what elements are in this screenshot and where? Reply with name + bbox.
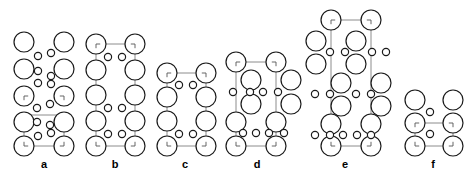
small-atom [246, 88, 253, 95]
unit-cell-edges [167, 73, 206, 146]
large-atom [281, 94, 301, 114]
panel-label-e: e [342, 158, 348, 170]
small-atom [34, 67, 41, 74]
large-atom [405, 90, 425, 110]
small-atom [259, 88, 266, 95]
small-atom [175, 130, 182, 137]
small-atom [341, 48, 348, 55]
large-atom [54, 59, 74, 79]
large-atom [443, 90, 463, 110]
large-atom [157, 87, 177, 107]
small-atom [104, 53, 111, 60]
large-atom [306, 31, 326, 51]
small-atom [426, 108, 433, 115]
small-atom [326, 90, 333, 97]
small-atom [367, 90, 374, 97]
small-atom [326, 48, 333, 55]
structure-panel-f: f [405, 90, 463, 170]
small-atom [46, 100, 53, 107]
large-atoms [157, 63, 216, 156]
panel-label-a: a [41, 158, 48, 170]
small-atom [34, 132, 41, 139]
structure-panel-a: a [14, 32, 74, 170]
large-atom [54, 112, 74, 132]
large-atom [196, 111, 216, 131]
small-atom [368, 48, 375, 55]
small-atom [34, 52, 41, 59]
small-atom [33, 104, 40, 111]
large-atom [157, 111, 177, 131]
panel-label-b: b [112, 158, 119, 170]
large-atoms [226, 52, 301, 156]
large-atom [331, 73, 351, 93]
large-atom [331, 96, 351, 116]
small-atom [118, 130, 125, 137]
small-atom [367, 131, 374, 138]
structure-panel-c: c [157, 63, 216, 170]
structures-canvas: abcdef [0, 0, 472, 186]
large-atom [346, 31, 366, 51]
large-atom [14, 112, 34, 132]
small-atom [189, 81, 196, 88]
large-atom [86, 60, 106, 80]
small-atom [426, 130, 433, 137]
structure-panel-d: d [226, 52, 301, 170]
small-atom [175, 81, 182, 88]
small-atoms [175, 81, 196, 137]
large-atom [306, 54, 326, 74]
small-atoms [33, 49, 54, 139]
small-atoms [104, 53, 125, 137]
large-atom [86, 85, 106, 105]
small-atom [47, 49, 54, 56]
small-atom [104, 130, 111, 137]
small-atom [46, 121, 53, 128]
large-atom [125, 85, 145, 105]
small-atom [34, 79, 41, 86]
small-atom [252, 129, 259, 136]
large-atom [14, 59, 34, 79]
small-atom [239, 129, 246, 136]
large-atom [125, 60, 145, 80]
large-atom [371, 73, 391, 93]
small-atom [47, 72, 54, 79]
large-atoms [14, 32, 74, 156]
small-atom [326, 131, 333, 138]
small-atom [47, 129, 54, 136]
small-atom [352, 90, 359, 97]
small-atom [189, 130, 196, 137]
panel-label-d: d [254, 158, 261, 170]
large-atom [196, 87, 216, 107]
small-atom [47, 80, 54, 87]
small-atom [353, 131, 360, 138]
large-atom [14, 32, 34, 52]
small-atom [280, 129, 287, 136]
large-atom [125, 111, 145, 131]
small-atom [339, 131, 346, 138]
structure-panel-b: b [86, 34, 145, 170]
large-atom [86, 111, 106, 131]
large-atom [371, 96, 391, 116]
panel-label-f: f [431, 158, 435, 170]
small-atom [118, 53, 125, 60]
small-atom [382, 48, 389, 55]
small-atom [229, 88, 236, 95]
panel-label-c: c [182, 158, 188, 170]
large-atom [281, 70, 301, 90]
structure-panel-e: e [306, 10, 391, 170]
small-atom [274, 88, 281, 95]
large-atom [54, 32, 74, 52]
large-atoms [86, 34, 145, 156]
small-atom [265, 129, 272, 136]
small-atom [104, 104, 111, 111]
crystal-structure-figure: abcdef [0, 0, 472, 186]
small-atom [311, 131, 318, 138]
small-atom [33, 118, 40, 125]
large-atom [241, 70, 261, 90]
small-atom [311, 90, 318, 97]
corner-tick-marks [167, 73, 206, 146]
large-atom [346, 54, 366, 74]
small-atom [118, 104, 125, 111]
large-atom [241, 94, 261, 114]
